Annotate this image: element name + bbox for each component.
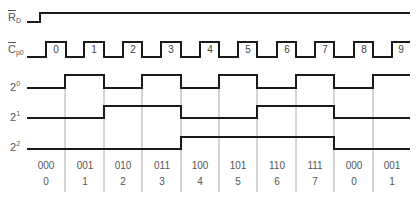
state-decimal: 7 [312,176,318,187]
state-binary: 011 [154,160,170,171]
state-decimal: 2 [120,176,126,187]
label-main: C [8,43,16,55]
label-sup: 1 [16,110,20,117]
state-decimal: 1 [82,176,88,187]
waveform-q0 [27,75,410,88]
pulse-number: 3 [168,44,174,55]
state-decimal: 0 [43,176,49,187]
waveform-cp0 [27,42,410,57]
pulse-number: 5 [245,44,251,55]
pulse-number: 4 [207,44,213,55]
gridlines [65,75,373,192]
state-binary: 001 [384,160,401,171]
pulse-number: 2 [130,44,136,55]
state-decimal: 5 [235,176,241,187]
state-decimal: 6 [274,176,280,187]
pulse-number: 0 [53,44,59,55]
signal-label-rd: RD [8,12,21,24]
state-binary: 000 [346,160,363,171]
signal-label-q0: 20 [10,80,20,93]
pulse-number: 8 [361,44,367,55]
state-decimal: 0 [351,176,357,187]
waveform-rd [27,13,410,22]
label-sub: p0 [16,49,24,56]
signal-label-q2: 22 [10,140,20,153]
label-sub: D [16,17,21,24]
pulse-number: 6 [284,44,290,55]
pulse-number: 9 [398,44,404,55]
state-decimal: 3 [159,176,165,187]
state-binary: 000 [38,160,55,171]
state-binary: 100 [192,160,209,171]
state-binary: 010 [115,160,132,171]
signal-label-cp0: Cp0 [8,44,24,56]
state-binary: 111 [307,160,322,171]
state-binary: 001 [77,160,94,171]
state-decimal: 1 [389,176,395,187]
label-sup: 2 [16,140,20,147]
label-main: R [8,11,16,23]
state-decimal: 4 [197,176,203,187]
pulse-number: 1 [91,44,97,55]
pulse-number: 7 [322,44,328,55]
state-binary: 101 [230,160,247,171]
state-binary: 110 [269,160,285,171]
label-sup: 0 [16,80,20,87]
signal-label-q1: 21 [10,110,20,123]
